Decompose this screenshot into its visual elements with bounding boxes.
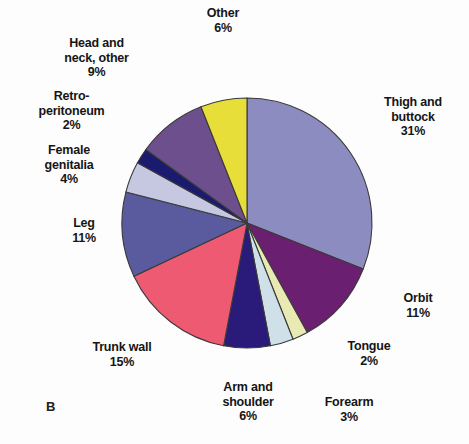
panel-letter-b: B — [46, 399, 55, 414]
slice-label-forearm: Forearm 3% — [304, 395, 394, 424]
slice-label-retroperitoneum: Retro- peritoneum 2% — [14, 89, 129, 133]
slice-label-head-and-neck-other: Head and neck, other 9% — [34, 36, 159, 80]
pie-slices-group — [122, 98, 372, 348]
slice-label-orbit: Orbit 11% — [381, 291, 455, 320]
slice-label-arm-and-shoulder: Arm and shoulder 6% — [198, 380, 298, 424]
slice-label-female-genitalia: Female genitalia 4% — [14, 143, 124, 187]
slice-label-other: Other 6% — [178, 6, 268, 35]
slice-label-leg: Leg 11% — [46, 216, 122, 245]
slice-label-tongue: Tongue 2% — [326, 339, 412, 368]
slice-label-trunk-wall: Trunk wall 15% — [64, 340, 180, 369]
slice-label-thigh-and-buttock: Thigh and buttock 31% — [362, 95, 464, 139]
pie-chart-figure: Other 6% Head and neck, other 9% Retro- … — [0, 0, 469, 444]
